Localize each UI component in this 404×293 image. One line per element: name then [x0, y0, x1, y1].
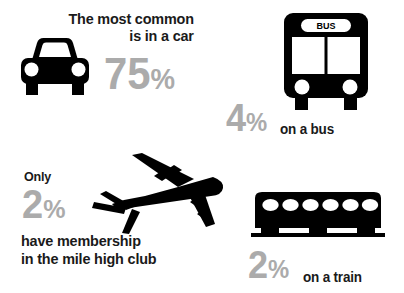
bus-suffix-label: on a bus — [280, 122, 334, 138]
plane-text-line-2: in the mile high club — [21, 251, 156, 268]
car-percentage-value: 75 — [104, 49, 151, 98]
plane-percentage: 2% — [22, 184, 65, 224]
transport-statistics-infographic: The most common is in a car 75% BUS — [0, 0, 404, 293]
car-percentage: 75% — [104, 52, 175, 96]
train-percentage-value: 2 — [248, 244, 268, 286]
bus-sign-text: BUS — [316, 21, 335, 31]
plane-stat-block: Only 2% have membership in the mile high… — [0, 146, 225, 293]
train-percentage: 2% — [248, 246, 289, 284]
train-suffix-label: on a train — [303, 270, 362, 286]
bus-front-icon: BUS — [280, 10, 372, 110]
train-percent-symbol: % — [268, 255, 289, 283]
bus-percentage: 4% — [226, 99, 267, 137]
plane-percentage-value: 2 — [22, 182, 43, 226]
plane-percent-symbol: % — [43, 194, 65, 224]
bus-percentage-value: 4 — [226, 97, 246, 139]
bus-stat-block: BUS 4% on a bus — [202, 0, 404, 146]
car-stat-block: The most common is in a car 75% — [0, 0, 202, 146]
car-percent-symbol: % — [151, 63, 176, 95]
car-front-icon — [16, 34, 94, 96]
bus-percent-symbol: % — [246, 108, 267, 136]
car-heading-line-1: The most common — [69, 11, 194, 28]
train-carriage-icon — [251, 188, 385, 240]
train-stat-block: 2% on a train — [225, 146, 404, 293]
airplane-icon — [82, 146, 228, 242]
